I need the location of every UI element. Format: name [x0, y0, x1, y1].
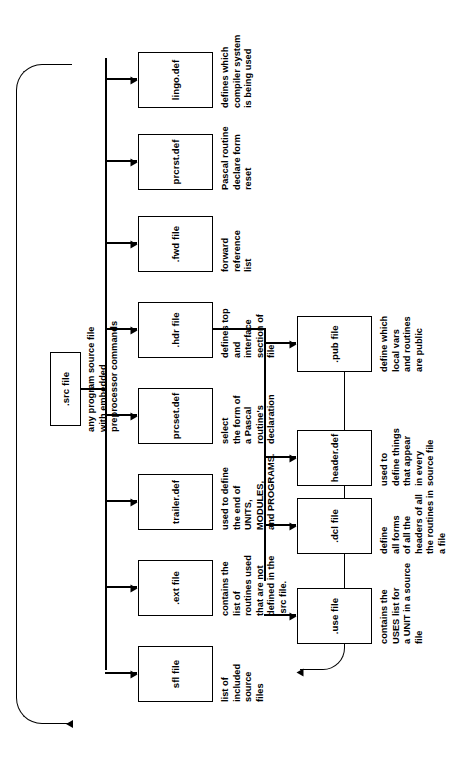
branch-arrow-lingo [131, 77, 138, 85]
node-dcl-file-label: .dcl file [329, 509, 340, 543]
feedback-arrow-dcl-to-lingo [296, 669, 303, 677]
node-trailer-def-label: trailer.def [170, 480, 181, 524]
branch-arrow-sfl [131, 671, 138, 679]
node-fwd-file[interactable]: .fwd file [138, 216, 213, 272]
trunk-level2-riser [213, 328, 266, 330]
trunk-level2-spine [264, 328, 266, 581]
branch-arrow-trailer [131, 499, 138, 507]
node-pub-file[interactable]: .pub file [297, 316, 372, 372]
node-fwd-file-label: .fwd file [170, 226, 181, 262]
node-header-def-label: header.def [329, 434, 340, 483]
node-trailer-def[interactable]: trailer.def [138, 474, 213, 530]
branch-arrow-prcset [131, 413, 138, 421]
node-ext-file-label: .ext file [170, 571, 181, 605]
branch-arrow-fwd [131, 241, 138, 249]
node-header-def[interactable]: header.def [297, 430, 372, 486]
node-prcrst-def[interactable]: prcrst.def [138, 134, 213, 190]
branch-arrow-use [290, 613, 297, 621]
branch-arrow-dcl [290, 523, 297, 531]
caption-sfl-file: list of included source files [220, 592, 266, 702]
node-use-file[interactable]: .use file [297, 588, 372, 644]
node-ext-file[interactable]: .ext file [138, 560, 213, 616]
node-pub-file-label: .pub file [329, 325, 340, 362]
node-prcset-def[interactable]: prcset.def [138, 388, 213, 444]
branch-arrow-headerdef [290, 455, 297, 463]
node-sfl-file-label: sfl file [170, 660, 181, 688]
branch-arrow-ext [131, 585, 138, 593]
feedback-arrow-sfl-to-src [66, 720, 73, 728]
node-prcset-def-label: prcset.def [170, 393, 181, 439]
node-lingo-def-label: lingo.def [170, 60, 181, 100]
branch-arrow-prcrst [131, 159, 138, 167]
trunk-level1-spine [105, 58, 107, 670]
node-dcl-file[interactable]: .dcl file [297, 498, 372, 554]
node-sfl-file[interactable]: sfl file [138, 646, 213, 702]
caption-src-file: any program source file with embedded pr… [86, 232, 121, 432]
branch-arrow-hdr [131, 327, 138, 335]
node-use-file-label: .use file [329, 598, 340, 634]
node-prcrst-def-label: prcrst.def [170, 140, 181, 185]
node-hdr-file[interactable]: .hdr file [138, 302, 213, 358]
caption-use-file: contains the USES list for a UNIT in a s… [379, 494, 425, 644]
node-src-file[interactable]: .src file [50, 352, 81, 426]
node-src-file-label: .src file [60, 372, 71, 406]
node-hdr-file-label: .hdr file [170, 312, 181, 347]
branch-arrow-pub [290, 341, 297, 349]
caption-pub-file: define which local vars and routines are… [379, 252, 425, 372]
node-lingo-def[interactable]: lingo.def [138, 52, 213, 108]
trunk-src-riser [80, 388, 107, 390]
